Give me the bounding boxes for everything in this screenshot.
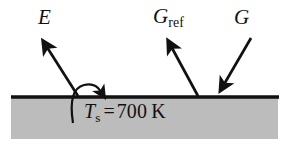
reflected-irradiation-symbol: G: [153, 4, 168, 28]
reflected-irradiation-label: Gref: [153, 6, 184, 27]
temperature-unit: K: [151, 100, 165, 122]
surface-temperature-label: Ts=700K: [84, 101, 166, 121]
reflected-irradiation-subscript: ref: [168, 15, 184, 30]
temperature-value: 700: [117, 100, 148, 122]
emission-label: E: [38, 7, 51, 28]
emission-arrow: [48, 48, 79, 96]
irradiation-label: G: [234, 7, 249, 28]
temperature-subscript: s: [95, 110, 100, 125]
temperature-symbol: T: [84, 100, 95, 122]
irradiation-symbol: G: [234, 5, 249, 29]
radiation-surface-figure: E Gref G Ts=700K: [0, 0, 288, 143]
reflected-irradiation-arrow: [172, 48, 198, 96]
emission-symbol: E: [38, 5, 51, 29]
irradiation-arrow: [225, 38, 252, 84]
equals-sign: =: [103, 100, 114, 122]
